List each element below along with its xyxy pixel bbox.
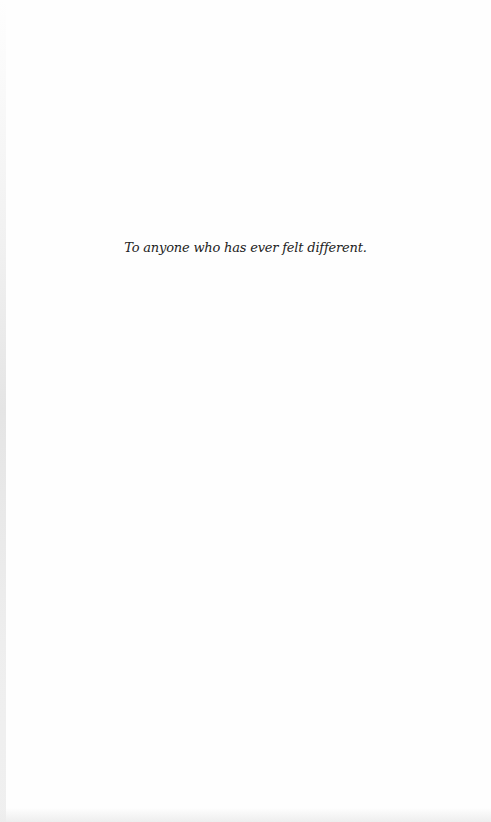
page-edge-shadow-bottom: [0, 808, 491, 822]
page-edge-shadow-left: [0, 0, 6, 822]
book-page: To anyone who has ever felt different.: [0, 0, 491, 822]
dedication-text: To anyone who has ever felt different.: [0, 240, 491, 255]
